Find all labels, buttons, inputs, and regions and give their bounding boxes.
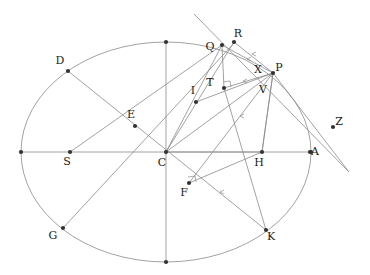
segment-C-to-P <box>166 73 273 152</box>
point-label-E: E <box>127 108 135 121</box>
vertex-dot-left-vertex <box>19 150 23 154</box>
point-dot-C <box>164 150 168 154</box>
point-label-F: F <box>180 186 188 199</box>
point-label-S: S <box>63 155 71 168</box>
point-label-R: R <box>234 27 243 40</box>
point-dot-D <box>66 69 70 73</box>
vertex-dot-bottom-vertex <box>164 260 168 264</box>
tick-on-PH-upper-glyph <box>240 114 244 118</box>
marks-group <box>188 52 256 194</box>
point-dot-E <box>133 124 137 128</box>
point-label-K: K <box>267 230 276 243</box>
geometry-svg: DESCGITQRPXVHAZFK <box>0 0 370 275</box>
point-label-G: G <box>49 229 58 242</box>
point-dot-R <box>232 40 236 44</box>
point-dot-T <box>222 86 226 90</box>
point-label-T: T <box>206 76 214 89</box>
point-dot-F <box>187 181 191 185</box>
point-label-I: I <box>191 84 195 97</box>
point-label-D: D <box>56 54 65 67</box>
point-dot-S <box>68 150 72 154</box>
tick-on-QP-glyph <box>247 57 251 61</box>
point-label-Q: Q <box>205 40 214 53</box>
labels-group: DESCGITQRPXVHAZFK <box>49 27 344 243</box>
point-dot-G <box>61 226 65 230</box>
point-dot-H <box>260 150 264 154</box>
tick-on-RP <box>252 52 256 56</box>
point-label-C: C <box>158 156 166 169</box>
tick-on-PH-upper <box>240 114 244 118</box>
point-label-H: H <box>254 156 264 169</box>
point-label-A: A <box>310 145 320 158</box>
segment-G-to-R <box>63 41 236 228</box>
point-label-V: V <box>258 83 268 96</box>
tick-on-QP <box>247 57 251 61</box>
figure-canvas: DESCGITQRPXVHAZFK <box>0 0 370 275</box>
segment-tangent-line <box>194 14 349 172</box>
point-label-Z: Z <box>335 115 343 128</box>
segments-group <box>21 14 349 262</box>
segment-C-to-Q <box>166 45 222 152</box>
point-dot-Q <box>220 43 224 47</box>
vertex-dot-top-vertex <box>164 40 168 44</box>
point-label-P: P <box>275 61 283 74</box>
segment-C-to-R <box>166 42 234 152</box>
point-dot-I <box>194 100 198 104</box>
tick-on-RP-glyph <box>252 52 256 56</box>
point-label-X: X <box>254 63 262 76</box>
